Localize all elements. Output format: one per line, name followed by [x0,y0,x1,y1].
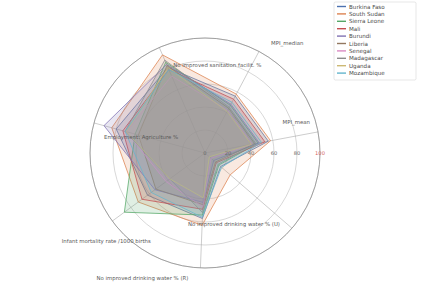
axis-label: No improved drinking water % (U) [188,221,280,228]
axis-label: No improved sanitation facilit. % [173,62,261,69]
legend-label: Burundi [349,33,371,39]
legend-label: Burkina Faso [349,4,385,10]
axis-label: MPI_mean [283,119,310,126]
radar-series-group [104,55,271,226]
legend-label: Madagascar [349,55,384,62]
legend-label: Uganda [349,63,371,70]
radial-tick-label: 40 [248,150,255,156]
radar-chart-figure: 020406080100MPI_medianNo improved sanita… [0,0,421,305]
radial-tick-label: 100 [315,150,325,156]
legend-label: Senegal [349,48,372,55]
radar-chart-svg: 020406080100MPI_medianNo improved sanita… [0,0,421,305]
legend-label: Liberia [349,41,368,47]
radial-tick-label: 60 [271,150,278,156]
legend-label: South Sudan [349,11,385,17]
legend-label: Mozambique [349,70,385,77]
axis-label: Infant mortality rate /1000 births [62,238,151,245]
radial-tick-label: 80 [294,150,301,156]
axis-label: MPI_median [271,40,303,47]
axis-label: Employment: Agriculture % [104,134,178,141]
axis-label: No improved drinking water % (R) [97,275,189,282]
radial-tick-label: 0 [203,150,206,156]
legend[interactable]: Burkina FasoSouth SudanSierra LeoneMaliB… [334,2,416,80]
radial-tick-label: 20 [225,150,232,156]
legend-label: Mali [349,26,361,32]
legend-label: Sierra Leone [349,18,385,24]
